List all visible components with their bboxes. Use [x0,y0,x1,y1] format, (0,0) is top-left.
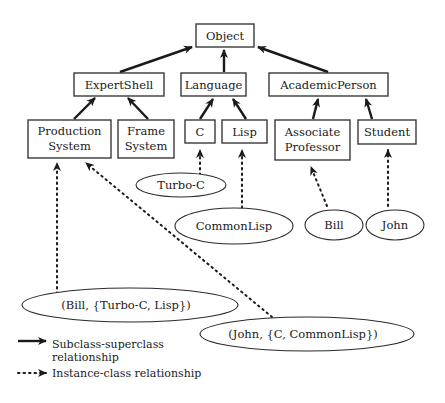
edge-academicperson-object [258,47,328,72]
instance-label: (Bill, {Turbo-C, Lisp}) [61,298,190,312]
class-label-line2: System [125,139,168,153]
legend-subclass-line1: Subclass-superclass [52,338,164,351]
instance-turbo-c: Turbo-C [136,173,226,197]
edge-expertshell-object [120,47,192,72]
edge-student-academicperson [366,99,372,119]
instance-bill: Bill [305,210,363,240]
instance-john-tuple: (John, {C, CommonLisp}) [200,317,414,351]
instance-bill-tuple: (Bill, {Turbo-C, Lisp}) [22,288,238,322]
edge-lisp-language [233,99,246,119]
class-label: Language [185,78,243,92]
instance-commonlisp: CommonLisp [175,208,293,244]
class-object: Object [196,24,254,47]
class-label-line1: Frame [127,124,165,138]
class-label: Lisp [232,125,257,139]
legend-instance: Instance-class relationship [52,367,201,380]
class-label-line2: Professor [285,140,341,154]
class-lisp: Lisp [222,120,267,143]
class-c: C [185,120,215,143]
edge-assocprof-academicperson [313,99,318,119]
class-label: Object [206,29,245,43]
legend: Subclass-superclass relationship Instanc… [18,338,201,380]
class-frame-system: Frame System [118,120,174,158]
edge-production-expertshell [74,98,95,119]
class-label: Student [364,125,410,139]
class-label-line2: System [48,139,91,153]
class-label: C [196,125,205,139]
instance-label: Bill [324,218,344,232]
instance-john: John [366,210,424,240]
class-hierarchy-diagram: Object ExpertShell Language AcademicPers… [0,0,445,403]
class-label: AcademicPerson [279,78,377,92]
instance-label: John [381,218,409,232]
class-student: Student [358,120,416,144]
class-label: ExpertShell [85,78,154,92]
class-expertshell: ExpertShell [74,73,164,96]
class-language: Language [181,73,246,96]
instance-label: (John, {C, CommonLisp}) [228,327,377,341]
class-label-line1: Associate [284,125,341,139]
class-associate-professor: Associate Professor [275,120,350,160]
edge-frame-expertshell [128,98,148,119]
edge-bill-assocprof [311,167,327,206]
class-label-line1: Production [38,124,103,138]
instance-label: Turbo-C [157,178,205,192]
class-production-system: Production System [28,120,111,158]
class-academicperson: AcademicPerson [269,73,388,96]
instance-label: CommonLisp [196,219,272,233]
legend-subclass-line2: relationship [52,351,119,364]
edge-c-language [200,99,213,119]
